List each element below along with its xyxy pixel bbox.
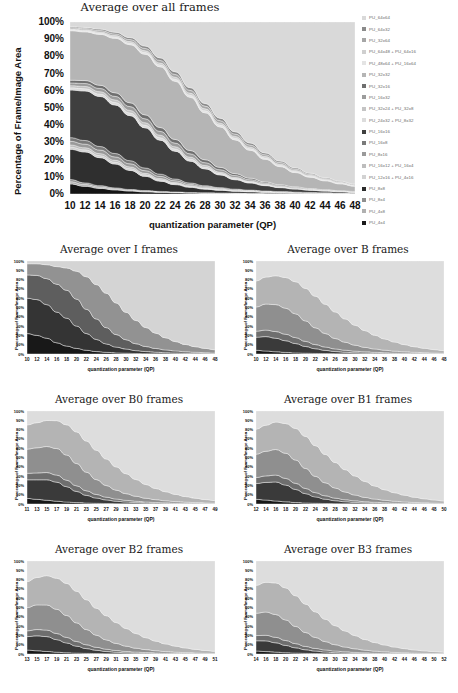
subchart-plot-area xyxy=(256,261,444,354)
subchart-title: Average over B frames xyxy=(243,243,453,255)
legend-item: PU_48x64 + PU_16x64 xyxy=(360,58,458,69)
subchart-y-tick: 60% xyxy=(2,446,24,451)
legend-item-label: PU_64x48 + PU_64x16 xyxy=(369,49,416,54)
subchart-title: Average over B2 frames xyxy=(14,543,224,555)
subchart-y-tick: 20% xyxy=(2,633,24,638)
legend-item: PU_8x8 xyxy=(360,183,458,194)
subchart-y-tick: 10% xyxy=(2,642,24,647)
legend-item: PU_4x4 xyxy=(360,217,458,228)
stacked-area-svg xyxy=(256,261,444,354)
subchart-y-tick: 90% xyxy=(231,268,253,273)
legend-swatch-icon xyxy=(362,175,366,179)
subchart-y-axis-label: Percentage of Frame/Image Area xyxy=(14,432,19,500)
legend-swatch-icon xyxy=(362,221,366,225)
subchart-x-axis-label: quantization parameter (QP) xyxy=(27,516,215,522)
subchart-y-tick: 20% xyxy=(231,483,253,488)
subchart-y-tick: 50% xyxy=(231,605,253,610)
subchart-y-tick: 10% xyxy=(2,342,24,347)
legend-item: PU_32x24 + PU_32x8 xyxy=(360,103,458,114)
subchart-b3-frames: Average over B3 frames0%10%20%30%40%50%6… xyxy=(229,543,458,693)
subchart-y-tick: 0% xyxy=(231,352,253,357)
subchart-y-tick: 80% xyxy=(2,427,24,432)
subchart-y-tick: 20% xyxy=(2,333,24,338)
legend-swatch-icon xyxy=(362,141,366,145)
subchart-y-tick: 30% xyxy=(231,324,253,329)
subchart-y-tick: 80% xyxy=(2,577,24,582)
subchart-y-tick: 70% xyxy=(231,436,253,441)
main-chart-y-tick: 0% xyxy=(18,188,64,199)
legend-item-label: PU_32x24 + PU_32x8 xyxy=(369,106,413,111)
legend-item-label: PU_12x16 + PU_4x16 xyxy=(369,175,413,180)
main-chart-y-tick: 70% xyxy=(18,68,64,79)
subchart-y-tick: 100% xyxy=(231,409,253,414)
subchart-y-tick: 40% xyxy=(2,464,24,469)
legend-item-label: PU_64x64 xyxy=(369,15,390,20)
legend-swatch-icon xyxy=(362,198,366,202)
main-chart-y-tick: 60% xyxy=(18,85,64,96)
legend-item: PU_32x32 xyxy=(360,69,458,80)
legend-swatch-icon xyxy=(362,16,366,20)
subchart-y-tick: 80% xyxy=(231,577,253,582)
subchart-y-tick: 30% xyxy=(2,624,24,629)
subchart-y-tick: 0% xyxy=(2,352,24,357)
subchart-y-tick: 80% xyxy=(231,277,253,282)
subchart-plot-area xyxy=(27,411,215,504)
subchart-y-tick: 30% xyxy=(2,324,24,329)
subchart-x-axis-label: quantization parameter (QP) xyxy=(27,666,215,672)
subchart-y-tick: 70% xyxy=(2,586,24,591)
main-chart-y-tick: 100% xyxy=(18,16,64,27)
legend-item-label: PU_16x12 + PU_16x4 xyxy=(369,163,413,168)
legend-item-label: PU_16x8 xyxy=(369,140,387,145)
subchart-title: Average over B0 frames xyxy=(14,393,224,405)
subchart-x-tick: 48 xyxy=(437,357,451,362)
subchart-y-tick: 30% xyxy=(231,624,253,629)
legend-swatch-icon xyxy=(362,50,366,54)
legend-swatch-icon xyxy=(362,130,366,134)
legend-item: PU_24x32 + PU_8x32 xyxy=(360,115,458,126)
legend-item-label: PU_32x32 xyxy=(369,72,390,77)
subchart-y-tick: 90% xyxy=(2,568,24,573)
subchart-y-tick: 50% xyxy=(2,305,24,310)
legend-item: PU_16x12 + PU_16x4 xyxy=(360,160,458,171)
legend-item-label: PU_8x16 xyxy=(369,152,387,157)
legend-swatch-icon xyxy=(362,164,366,168)
legend-item: PU_4x8 xyxy=(360,206,458,217)
legend-item: PU_64x48 + PU_64x16 xyxy=(360,46,458,57)
subchart-b2-frames: Average over B2 frames0%10%20%30%40%50%6… xyxy=(0,543,229,693)
legend-swatch-icon xyxy=(362,118,366,122)
legend-swatch-icon xyxy=(362,152,366,156)
legend-item: PU_8x4 xyxy=(360,194,458,205)
main-chart-y-tick: 50% xyxy=(18,102,64,113)
subchart-y-tick: 0% xyxy=(2,652,24,657)
subchart-plot-area xyxy=(27,261,215,354)
subchart-y-tick: 40% xyxy=(231,464,253,469)
subchart-plot-area xyxy=(256,411,444,504)
legend-swatch-icon xyxy=(362,27,366,31)
subchart-y-axis-label: Percentage of Frame/Image Area xyxy=(14,282,19,350)
subchart-y-tick: 90% xyxy=(231,568,253,573)
legend-item: PU_64x64 xyxy=(360,12,458,23)
subchart-y-tick: 0% xyxy=(2,502,24,507)
legend-swatch-icon xyxy=(362,107,366,111)
subchart-y-tick: 60% xyxy=(2,596,24,601)
subchart-x-axis-label: quantization parameter (QP) xyxy=(256,666,444,672)
subchart-y-tick: 100% xyxy=(2,259,24,264)
legend-item-label: PU_24x32 + PU_8x32 xyxy=(369,118,413,123)
legend-swatch-icon xyxy=(362,73,366,77)
legend-swatch-icon xyxy=(362,61,366,65)
legend-item: PU_16x16 xyxy=(360,126,458,137)
subchart-y-tick: 50% xyxy=(2,605,24,610)
subchart-y-axis-label: Percentage of Frame/Image Area xyxy=(243,432,248,500)
stacked-area-svg xyxy=(256,561,444,654)
subchart-y-axis-label: Percentage of Frame/Image Area xyxy=(14,582,19,650)
subchart-b1-frames: Average over B1 frames0%10%20%30%40%50%6… xyxy=(229,393,458,543)
subchart-y-tick: 100% xyxy=(2,409,24,414)
legend-item: PU_32x16 xyxy=(360,80,458,91)
subchart-title: Average over B3 frames xyxy=(243,543,453,555)
legend-swatch-icon xyxy=(362,187,366,191)
main-chart-title: Average over all frames xyxy=(0,0,300,14)
legend-item-label: PU_32x64 xyxy=(369,38,390,43)
legend-item-label: PU_4x8 xyxy=(369,209,385,214)
legend-item-label: PU_64x32 xyxy=(369,27,390,32)
subchart-y-tick: 70% xyxy=(2,286,24,291)
